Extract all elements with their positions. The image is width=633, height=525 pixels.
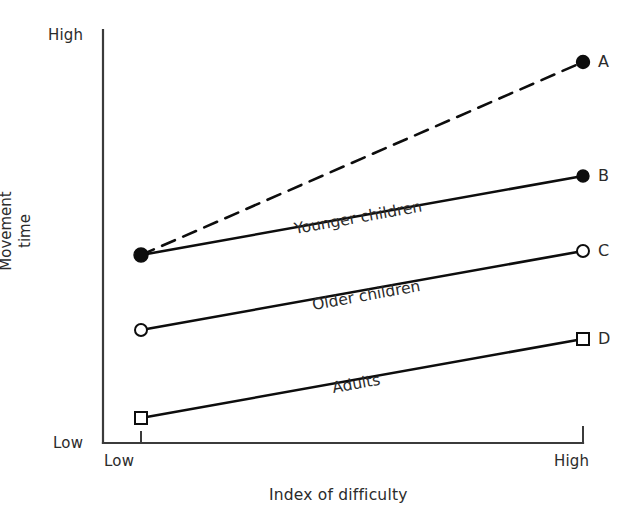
series-label-c: C [598,241,609,260]
y-axis-high-label: High [48,26,83,44]
marker-d-start-open-square [135,412,147,424]
x-axis-low-label: Low [104,452,134,470]
y-axis-title-line2: time [16,214,34,248]
marker-ab-shared-origin-filled-circle [134,248,148,262]
x-axis-title: Index of difficulty [269,486,408,504]
marker-c-end-open-circle [577,245,589,257]
marker-c-start-open-circle [135,324,147,336]
series-label-d: D [598,329,611,348]
marker-a-end-filled-circle [577,56,590,69]
chart-plot-area [0,0,633,525]
chart-figure: High Low Movement time Low High Index of… [0,0,633,525]
y-axis-title: Movement time [22,196,92,316]
series-label-a: A [598,52,609,71]
y-axis-title-line1: Movement [0,191,15,270]
x-axis-high-label: High [554,452,589,470]
y-axis-low-label: Low [53,434,83,452]
marker-b-end-filled-circle [577,170,589,182]
marker-d-end-open-square [577,333,589,345]
series-label-b: B [598,166,609,185]
